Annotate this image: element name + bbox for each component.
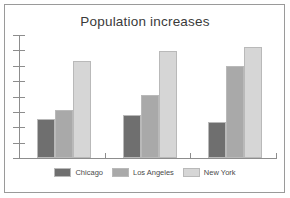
legend-entry-new-york[interactable]: New York: [183, 168, 236, 177]
bars-layer: [19, 35, 276, 158]
bar-los-angeles: [226, 66, 244, 158]
legend-label: New York: [204, 168, 236, 177]
bar-new-york: [244, 47, 262, 158]
bar-chicago: [208, 122, 226, 158]
x-axis-line: [19, 158, 276, 159]
legend-swatch-icon: [112, 168, 129, 177]
legend-label: Chicago: [75, 168, 103, 177]
legend-entry-chicago[interactable]: Chicago: [54, 168, 103, 177]
legend-entry-los-angeles[interactable]: Los Angeles: [112, 168, 174, 177]
legend-swatch-icon: [183, 168, 200, 177]
legend-label: Los Angeles: [133, 168, 174, 177]
chart-legend: ChicagoLos AngelesNew York: [0, 168, 290, 177]
chart-title: Population increases: [0, 14, 290, 29]
bar-new-york: [159, 51, 177, 158]
bar-chicago: [37, 119, 55, 158]
legend-swatch-icon: [54, 168, 71, 177]
x-axis-tick: [276, 153, 277, 159]
bar-los-angeles: [141, 95, 159, 158]
bar-chicago: [123, 115, 141, 158]
bar-los-angeles: [55, 110, 73, 158]
chart-figure: Population increases ChicagoLos AngelesN…: [0, 0, 290, 198]
bar-new-york: [73, 61, 91, 158]
